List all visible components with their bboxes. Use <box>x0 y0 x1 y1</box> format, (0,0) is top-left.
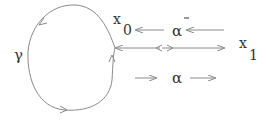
label-alpha-bar: α <box>172 22 182 40</box>
label-x1: x <box>239 35 247 51</box>
diagram-canvas: γ x 0 x 1 α α <box>0 0 267 120</box>
label-x0-subscript: 0 <box>123 22 132 38</box>
label-gamma: γ <box>14 46 23 64</box>
label-x0: x <box>113 11 121 27</box>
label-alpha: α <box>172 69 182 87</box>
label-x1-subscript: 1 <box>249 47 258 63</box>
loop-gamma <box>28 5 115 110</box>
